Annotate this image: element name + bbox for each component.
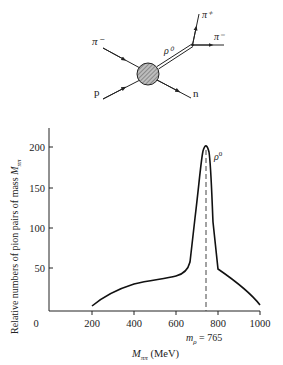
x-tick-label: 1000 [250, 318, 271, 329]
arrow-icon [193, 28, 197, 45]
plot: 200 150 100 50 0 200 400 600 800 1000 ρ0… [9, 128, 271, 362]
interaction-vertex-blob [137, 63, 159, 85]
incoming-proton-label: p [94, 86, 100, 98]
x-tick-label: 400 [126, 318, 142, 329]
outgoing-neutron-label: n [193, 87, 199, 99]
peak-label: ρ0 [213, 150, 223, 162]
x-tick-label: 600 [168, 318, 184, 329]
x-axis-label: Mππ (MeV) [131, 348, 179, 362]
resonance-mass-label: mρ = 765 [186, 332, 222, 346]
reaction-diagram: π⁻ p n ρ⁰ π⁺ π⁻ [92, 9, 225, 99]
arrow-icon [103, 88, 124, 99]
resonance-line [157, 44, 192, 67]
decay-pion-minus-label: π⁻ [214, 31, 225, 42]
resonance-label: ρ⁰ [163, 45, 175, 56]
incoming-pion-label: π⁻ [92, 35, 105, 47]
x-ticks: 0 200 400 600 800 1000 [33, 311, 270, 329]
figure: π⁻ p n ρ⁰ π⁺ π⁻ [0, 0, 283, 365]
y-axis-label: Relative numbers of pion pairs of mass M… [9, 159, 23, 334]
y-tick-label: 200 [29, 142, 45, 153]
x-tick-label: 200 [84, 318, 100, 329]
decay-pion-plus-label: π⁺ [202, 9, 213, 20]
y-tick-label: 150 [29, 183, 45, 194]
origin-label: 0 [33, 318, 38, 329]
data-series-line [92, 146, 260, 306]
x-tick-label: 800 [210, 318, 226, 329]
y-tick-label: 50 [35, 263, 46, 274]
y-tick-label: 100 [29, 223, 45, 234]
arrow-icon [157, 80, 178, 91]
arrow-icon [103, 48, 124, 60]
